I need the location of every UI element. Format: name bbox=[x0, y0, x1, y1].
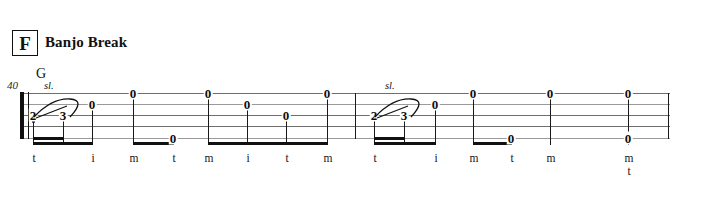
slide-curve-measure-2 bbox=[371, 98, 451, 120]
note-stem bbox=[208, 95, 209, 145]
tab-note[interactable]: 0 bbox=[507, 132, 516, 145]
tab-note[interactable]: 0 bbox=[323, 87, 332, 100]
fingering-letter: i bbox=[246, 152, 249, 165]
fingering-letter: t bbox=[373, 152, 376, 165]
tab-note[interactable]: 0 bbox=[469, 87, 478, 100]
beam-primary bbox=[374, 142, 436, 145]
fingering-letter: m bbox=[130, 152, 139, 165]
tab-note[interactable]: 0 bbox=[169, 132, 178, 145]
tab-note[interactable]: 0 bbox=[129, 87, 138, 100]
note-stem bbox=[473, 95, 474, 145]
rehearsal-mark-box: F bbox=[12, 30, 38, 56]
barline-middle bbox=[355, 93, 356, 139]
measure-number: 40 bbox=[7, 79, 18, 91]
fingering-letter: m bbox=[324, 152, 333, 165]
tab-note[interactable]: 0 bbox=[546, 87, 555, 100]
repeat-sign-thick-bar bbox=[20, 92, 24, 139]
fingering-letter: m bbox=[547, 152, 556, 165]
note-stem bbox=[327, 95, 328, 145]
tab-note[interactable]: 0 bbox=[243, 98, 252, 111]
fingering-letter: m bbox=[625, 152, 634, 165]
fingering-letter: t bbox=[627, 165, 630, 178]
fingering-letter: i bbox=[434, 152, 437, 165]
section-title: Banjo Break bbox=[45, 34, 127, 51]
note-stem bbox=[133, 95, 134, 145]
tab-note[interactable]: 0 bbox=[204, 87, 213, 100]
beam-primary bbox=[208, 142, 328, 145]
barline-end bbox=[668, 93, 669, 139]
tab-note[interactable]: 0 bbox=[282, 109, 291, 122]
rehearsal-mark-letter: F bbox=[19, 34, 31, 53]
staff-line-string-1 bbox=[22, 93, 670, 94]
tab-note[interactable]: 0 bbox=[624, 87, 633, 100]
slide-label-measure-2: sl. bbox=[385, 80, 395, 91]
beam-secondary bbox=[33, 137, 64, 140]
beam-secondary bbox=[374, 137, 405, 140]
fingering-letter: t bbox=[285, 152, 288, 165]
fingering-letter: t bbox=[172, 152, 175, 165]
staff-line-string-5 bbox=[22, 138, 670, 139]
staff-line-string-3 bbox=[22, 115, 670, 116]
tablature-sheet: F Banjo Break 40 G sl. sl. 2 3 0 0 0 0 bbox=[0, 0, 711, 222]
staff-line-string-4 bbox=[22, 126, 670, 127]
beam-primary bbox=[33, 142, 93, 145]
fingering-letter: m bbox=[470, 152, 479, 165]
fingering-letter: i bbox=[91, 152, 94, 165]
note-stem bbox=[247, 106, 248, 145]
tab-note[interactable]: 0 bbox=[624, 132, 633, 145]
slide-curve-measure-1 bbox=[30, 98, 110, 120]
note-stem bbox=[550, 95, 551, 145]
slide-label-measure-1: sl. bbox=[44, 80, 54, 91]
fingering-letter: t bbox=[510, 152, 513, 165]
fingering-letter: t bbox=[32, 152, 35, 165]
staff-line-string-2 bbox=[22, 104, 670, 105]
fingering-letter: m bbox=[205, 152, 214, 165]
